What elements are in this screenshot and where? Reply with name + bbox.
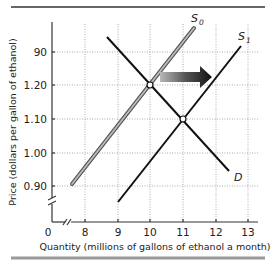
x-tick-labels: 0 8 9 10 11 12 13 xyxy=(45,226,255,238)
svg-text:9: 9 xyxy=(115,226,122,238)
svg-text:0: 0 xyxy=(199,18,204,27)
svg-text:12: 12 xyxy=(209,226,222,238)
svg-text:1.20: 1.20 xyxy=(24,79,47,91)
svg-text:10: 10 xyxy=(143,226,156,238)
supply-curve-s0 xyxy=(72,28,194,184)
svg-text:13: 13 xyxy=(241,226,254,238)
label-d: D xyxy=(234,171,242,184)
y-axis-title: Price (dollars per gallon of ethanol) xyxy=(7,38,18,205)
svg-text:1: 1 xyxy=(246,36,251,45)
equilibrium-point-new xyxy=(180,116,186,122)
svg-text:S: S xyxy=(238,30,245,43)
equilibrium-point-initial xyxy=(147,82,153,88)
svg-text:0: 0 xyxy=(45,226,52,238)
svg-text:1.00: 1.00 xyxy=(24,147,47,159)
label-s1: S 1 xyxy=(238,30,251,45)
grid xyxy=(52,24,258,222)
svg-text:0.90: 0.90 xyxy=(24,180,47,192)
label-s0: S 0 xyxy=(191,12,204,27)
x-axis-title: Quantity (millions of gallons of ethanol… xyxy=(40,241,271,252)
svg-text:S: S xyxy=(191,12,198,25)
svg-text:8: 8 xyxy=(82,226,89,238)
y-tick-labels: 90 1.20 1.10 1.00 0.90 xyxy=(24,46,47,192)
demand-curve xyxy=(107,37,229,171)
svg-text:11: 11 xyxy=(176,226,189,238)
svg-text:90: 90 xyxy=(34,46,47,58)
chart: 90 1.20 1.10 1.00 0.90 0 8 9 10 11 12 13… xyxy=(0,0,271,265)
svg-text:1.10: 1.10 xyxy=(24,113,47,125)
axes xyxy=(48,22,258,225)
